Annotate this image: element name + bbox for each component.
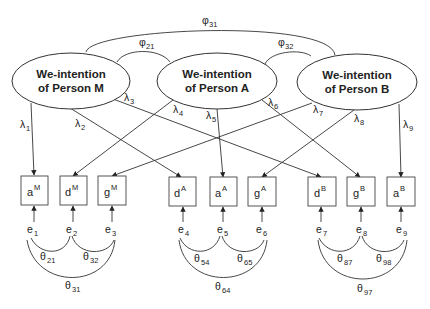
sem-diagram: φ 31 φ 21 φ 32 We-intention of Person M … bbox=[0, 0, 430, 309]
lambda7-label: λ7 bbox=[313, 103, 323, 118]
phi31-label: φ 31 bbox=[202, 14, 217, 29]
svg-text:4: 4 bbox=[179, 109, 183, 118]
theta87-label: θ87 bbox=[337, 252, 352, 267]
svg-text:B: B bbox=[360, 184, 365, 193]
theta98-label: θ98 bbox=[376, 252, 391, 267]
svg-text:θ: θ bbox=[65, 279, 71, 291]
svg-text:4: 4 bbox=[185, 229, 189, 238]
svg-text:64: 64 bbox=[222, 286, 230, 295]
e5-label: e5 bbox=[217, 223, 228, 238]
indicator-gM: gM bbox=[98, 176, 126, 205]
svg-text:θ: θ bbox=[357, 282, 363, 294]
svg-text:θ: θ bbox=[237, 252, 243, 264]
svg-text:g: g bbox=[353, 187, 359, 199]
svg-text:6: 6 bbox=[274, 102, 278, 111]
svg-text:21: 21 bbox=[47, 256, 55, 265]
theta97-label: θ97 bbox=[357, 282, 372, 297]
lambda6-label: λ6 bbox=[268, 96, 278, 111]
svg-text:54: 54 bbox=[201, 258, 209, 267]
svg-text:d: d bbox=[65, 186, 71, 198]
e8-label: e8 bbox=[356, 223, 367, 238]
e2-label: e2 bbox=[66, 223, 77, 238]
indicator-gA: gA bbox=[248, 177, 276, 206]
lambda1-path bbox=[31, 103, 34, 175]
theta54-label: θ54 bbox=[194, 252, 209, 267]
lambda9-path bbox=[399, 104, 401, 177]
svg-text:φ: φ bbox=[202, 14, 209, 26]
svg-text:8: 8 bbox=[360, 118, 364, 127]
svg-text:1: 1 bbox=[34, 229, 38, 238]
lambda5-label: λ5 bbox=[206, 109, 216, 124]
e4-label: e4 bbox=[178, 223, 189, 238]
svg-text:3: 3 bbox=[130, 97, 134, 106]
svg-text:2: 2 bbox=[81, 123, 85, 132]
phi32-label: φ 32 bbox=[278, 36, 293, 51]
svg-text:θ: θ bbox=[83, 250, 89, 262]
e6-label: e6 bbox=[256, 223, 267, 238]
svg-text:M: M bbox=[111, 183, 117, 192]
svg-text:e: e bbox=[256, 223, 262, 235]
indicator-dM: dM bbox=[60, 176, 87, 205]
svg-text:65: 65 bbox=[244, 258, 252, 267]
theta32-label: θ32 bbox=[83, 250, 98, 265]
indicator-aA: aA bbox=[210, 177, 237, 206]
svg-text:We-intention: We-intention bbox=[36, 68, 105, 80]
latent-M: We-intention of Person M bbox=[12, 53, 130, 109]
indicator-aM: aM bbox=[21, 176, 48, 205]
svg-text:a: a bbox=[27, 186, 34, 198]
phi21-label: φ 21 bbox=[139, 36, 154, 51]
svg-text:d: d bbox=[314, 187, 320, 199]
phi32-arc bbox=[265, 52, 311, 64]
theta64-label: θ64 bbox=[215, 280, 230, 295]
svg-text:A: A bbox=[261, 184, 266, 193]
svg-text:a: a bbox=[393, 187, 400, 199]
svg-text:d: d bbox=[174, 187, 180, 199]
svg-text:8: 8 bbox=[363, 229, 367, 238]
svg-text:B: B bbox=[400, 184, 405, 193]
svg-text:A: A bbox=[181, 184, 186, 193]
loading-paths bbox=[31, 99, 401, 177]
svg-text:21: 21 bbox=[146, 42, 154, 51]
svg-text:e: e bbox=[27, 223, 33, 235]
lambda1-label: λ1 bbox=[20, 118, 30, 133]
theta65-label: θ65 bbox=[237, 252, 252, 267]
svg-text:7: 7 bbox=[323, 229, 327, 238]
svg-text:e: e bbox=[217, 223, 223, 235]
svg-text:M: M bbox=[72, 183, 78, 192]
svg-text:θ: θ bbox=[40, 250, 46, 262]
svg-text:We-intention: We-intention bbox=[322, 69, 391, 81]
lambda2-label: λ2 bbox=[75, 117, 85, 132]
theta21-label: θ21 bbox=[40, 250, 55, 265]
svg-text:θ: θ bbox=[376, 252, 382, 264]
svg-text:of Person M: of Person M bbox=[38, 82, 104, 94]
svg-text:e: e bbox=[356, 223, 362, 235]
lambda8-path bbox=[262, 110, 354, 177]
svg-text:B: B bbox=[321, 184, 326, 193]
lambda4-label: λ4 bbox=[173, 103, 183, 118]
svg-text:98: 98 bbox=[383, 258, 391, 267]
error-labels: e1 e2 e3 e4 e5 e6 e7 e8 e9 bbox=[27, 223, 407, 238]
svg-text:of Person A: of Person A bbox=[185, 82, 249, 94]
indicator-dB: dB bbox=[308, 177, 336, 206]
svg-text:e: e bbox=[316, 223, 322, 235]
svg-text:1: 1 bbox=[26, 124, 30, 133]
e3-label: e3 bbox=[105, 223, 116, 238]
svg-text:2: 2 bbox=[73, 229, 77, 238]
indicator-gB: gB bbox=[347, 177, 375, 206]
svg-text:a: a bbox=[215, 187, 222, 199]
svg-text:e: e bbox=[105, 223, 111, 235]
svg-text:31: 31 bbox=[209, 20, 217, 29]
svg-text:5: 5 bbox=[224, 229, 228, 238]
theta31-label: θ31 bbox=[65, 279, 80, 294]
svg-text:31: 31 bbox=[72, 285, 80, 294]
lambda7-path bbox=[112, 103, 312, 176]
svg-text:of Person B: of Person B bbox=[325, 83, 390, 95]
svg-text:3: 3 bbox=[112, 229, 116, 238]
theta-labels: θ21 θ32 θ31 θ54 θ65 θ64 θ87 θ98 θ97 bbox=[40, 250, 391, 297]
svg-text:7: 7 bbox=[319, 109, 323, 118]
error-arrows bbox=[34, 206, 401, 222]
svg-text:87: 87 bbox=[344, 258, 352, 267]
phi21-arc bbox=[117, 52, 170, 63]
e7-label: e7 bbox=[316, 223, 327, 238]
svg-text:5: 5 bbox=[212, 115, 216, 124]
